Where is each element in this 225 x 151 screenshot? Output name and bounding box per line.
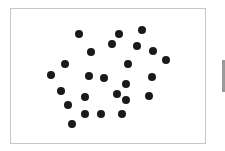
side-scroll-tab[interactable] [222,60,225,92]
dot [122,80,130,88]
dot [145,92,153,100]
dot [97,110,105,118]
dot [57,87,65,95]
dot [64,101,72,109]
dot [75,30,83,38]
dot [81,110,89,118]
dot [133,42,141,50]
dot [118,110,126,118]
dot [138,26,146,34]
dot [85,72,93,80]
dot [162,56,170,64]
dot [149,47,157,55]
dot [108,40,116,48]
dot [115,30,123,38]
dot-panel [10,8,206,144]
dot [47,71,55,79]
dot [100,74,108,82]
dot [113,90,121,98]
dot [124,60,132,68]
dot [81,93,89,101]
dot [68,120,76,128]
dot [61,60,69,68]
dot [87,48,95,56]
dot [148,73,156,81]
dot [122,96,130,104]
